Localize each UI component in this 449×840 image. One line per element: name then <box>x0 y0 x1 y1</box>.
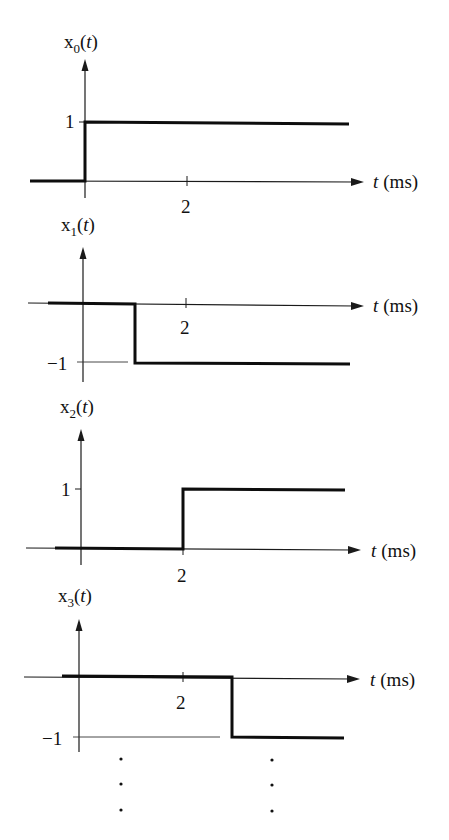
y-tick-label-minus1: −1 <box>47 353 67 374</box>
t-axis-arrow-icon <box>348 546 361 554</box>
y-axis-title-x0: x0(t) <box>64 31 98 56</box>
signal-x0 <box>30 122 349 181</box>
t-axis-label: t(ms) <box>370 669 415 691</box>
y-tick-label-minus1: −1 <box>42 728 62 749</box>
ellipsis-dot <box>119 782 122 785</box>
t-tick-label-2: 2 <box>181 196 191 217</box>
continuation-dots-right <box>270 758 273 812</box>
y-axis-arrow-icon <box>80 247 87 259</box>
t-tick-label-2: 2 <box>180 317 190 338</box>
t-axis-label: t(ms) <box>371 540 416 562</box>
ellipsis-dot <box>119 757 122 760</box>
t-axis-label: t(ms) <box>373 295 418 317</box>
ellipsis-dot <box>270 783 273 786</box>
t-axis-arrow-icon <box>351 302 364 310</box>
t-tick-label-2: 2 <box>177 565 187 586</box>
y-axis-title-x3: x3(t) <box>58 585 92 610</box>
signal-x3 <box>62 676 344 738</box>
panel-x0: x0(t) t(ms) 2 1 <box>30 31 418 217</box>
panel-x3: x3(t) t(ms) 2 −1 <box>24 585 415 752</box>
y-axis-title-x1: x1(t) <box>61 214 95 239</box>
y-axis-title-x2: x2(t) <box>60 396 94 421</box>
y-tick-label-1: 1 <box>65 111 75 132</box>
signal-x2 <box>55 489 345 549</box>
ellipsis-dot <box>270 758 273 761</box>
continuation-dots-left <box>119 757 122 811</box>
y-axis-arrow-icon <box>76 619 83 631</box>
ellipsis-dot <box>119 808 122 811</box>
step-signals-figure: x0(t) t(ms) 2 1 x1(t) t(ms) 2 −1 x2(t) <box>0 0 449 840</box>
y-axis-arrow-icon <box>82 59 89 71</box>
t-axis-arrow-icon <box>347 675 360 683</box>
panel-x2: x2(t) t(ms) 2 1 <box>26 396 416 586</box>
t-axis-label: t(ms) <box>373 171 418 193</box>
panel-x1: x1(t) t(ms) 2 −1 <box>28 214 418 382</box>
t-tick-label-2: 2 <box>176 692 186 713</box>
y-axis-arrow-icon <box>78 429 85 441</box>
signal-x1 <box>48 303 350 364</box>
ellipsis-dot <box>270 809 273 812</box>
y-tick-label-1: 1 <box>61 479 71 500</box>
t-axis-arrow-icon <box>351 178 364 186</box>
